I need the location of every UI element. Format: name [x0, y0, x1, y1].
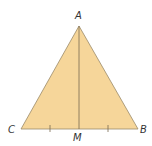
vertex-label-a: A [74, 10, 82, 21]
vertex-label-b: B [140, 124, 147, 135]
vertex-label-c: C [8, 124, 15, 135]
triangle-abc [21, 26, 138, 129]
midpoint-label-m: M [73, 132, 82, 143]
triangle-diagram: A C B M [0, 0, 152, 146]
